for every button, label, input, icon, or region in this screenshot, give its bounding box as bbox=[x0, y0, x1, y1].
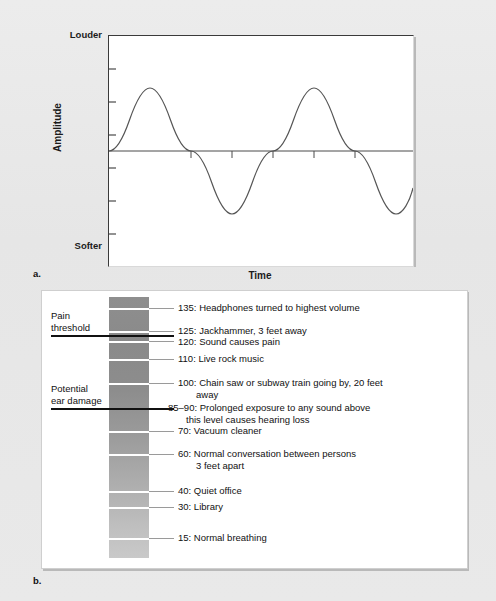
y-axis-title: Amplitude bbox=[52, 83, 63, 173]
panel-b-caption: b. bbox=[33, 575, 41, 586]
zone-label-line2: threshold bbox=[51, 322, 90, 333]
scale-item-text: 120: Sound causes pain bbox=[178, 336, 280, 347]
scale-item: 15: Normal breathing bbox=[178, 532, 443, 544]
leader-tick-30 bbox=[149, 507, 174, 508]
panel-b-decibel-scale: Pain threshold Potential ear damage 135:… bbox=[30, 288, 470, 588]
scale-item-text: 85–90: Prolonged exposure to any sound a… bbox=[168, 402, 370, 413]
bar-separator bbox=[109, 341, 149, 343]
bar-separator bbox=[109, 507, 149, 509]
leader-tick-60 bbox=[149, 454, 174, 455]
scale-item-text-cont: this level causes hearing loss bbox=[168, 414, 433, 426]
scale-item-text: 135: Headphones turned to highest volume bbox=[178, 302, 360, 313]
scale-item: 70: Vacuum cleaner bbox=[178, 425, 443, 437]
bar-separator bbox=[109, 491, 149, 493]
zone-label-line2: ear damage bbox=[51, 395, 102, 406]
bar-separator bbox=[109, 331, 149, 333]
leader-tick-120 bbox=[149, 341, 174, 342]
leader-tick-15 bbox=[149, 538, 174, 539]
scale-item: 40: Quiet office bbox=[178, 485, 443, 497]
bar-separator bbox=[109, 538, 149, 540]
wave-plot-area bbox=[108, 35, 414, 267]
scale-item: 85–90: Prolonged exposure to any sound a… bbox=[168, 402, 433, 425]
scale-item: 100: Chain saw or subway train going by,… bbox=[178, 377, 443, 400]
y-axis-bottom-label: Softer bbox=[30, 240, 102, 251]
zone-label-line1: Pain bbox=[51, 310, 70, 321]
leader-tick-100 bbox=[149, 383, 174, 384]
scale-item-text: 15: Normal breathing bbox=[178, 532, 267, 543]
pain-threshold-line bbox=[51, 335, 174, 337]
leader-tick-110 bbox=[149, 359, 174, 360]
scale-item-text: 70: Vacuum cleaner bbox=[178, 425, 262, 436]
scale-item-text-cont: away bbox=[178, 389, 443, 401]
scale-item: 120: Sound causes pain bbox=[178, 336, 443, 348]
panel-b-box: Pain threshold Potential ear damage 135:… bbox=[41, 290, 468, 569]
scale-item: 30: Library bbox=[178, 501, 443, 513]
scale-item-text: 110: Live rock music bbox=[178, 353, 264, 364]
wave-plot-svg bbox=[109, 36, 413, 266]
scale-item: 135: Headphones turned to highest volume bbox=[178, 302, 443, 314]
x-axis-title: Time bbox=[108, 270, 412, 281]
x-axis-ticks bbox=[191, 151, 355, 158]
leader-tick-125 bbox=[149, 331, 174, 332]
y-axis-top-label: Louder bbox=[30, 29, 102, 40]
zone-label-line1: Potential bbox=[51, 383, 88, 394]
bar-separator bbox=[109, 454, 149, 456]
zone-label-pain-threshold: Pain threshold bbox=[51, 310, 90, 333]
leader-tick-70 bbox=[149, 431, 174, 432]
ear-damage-threshold-line bbox=[51, 408, 174, 410]
scale-item: 125: Jackhammer, 3 feet away bbox=[178, 325, 443, 337]
cropped-header-text bbox=[0, 0, 496, 10]
scale-item-text: 60: Normal conversation between persons bbox=[178, 448, 356, 459]
scale-item: 110: Live rock music bbox=[178, 353, 443, 365]
panel-a-caption: a. bbox=[33, 268, 41, 279]
figure-page: Louder Softer Amplitude Time a. bbox=[0, 0, 496, 601]
zone-label-potential-ear-damage: Potential ear damage bbox=[51, 383, 102, 406]
bar-separator bbox=[109, 431, 149, 433]
leader-tick-135 bbox=[149, 308, 174, 309]
bar-separator bbox=[109, 383, 149, 385]
panel-a-sound-wave: Louder Softer Amplitude Time a. bbox=[30, 18, 426, 266]
bar-separator bbox=[109, 308, 149, 310]
scale-item-text: 100: Chain saw or subway train going by,… bbox=[178, 377, 383, 388]
scale-item-text: 30: Library bbox=[178, 501, 223, 512]
bar-separator bbox=[109, 359, 149, 361]
scale-item-text: 40: Quiet office bbox=[178, 485, 242, 496]
scale-item-text-cont: 3 feet apart bbox=[178, 460, 443, 472]
leader-tick-40 bbox=[149, 491, 174, 492]
scale-item: 60: Normal conversation between persons … bbox=[178, 448, 443, 471]
scale-item-text: 125: Jackhammer, 3 feet away bbox=[178, 325, 307, 336]
